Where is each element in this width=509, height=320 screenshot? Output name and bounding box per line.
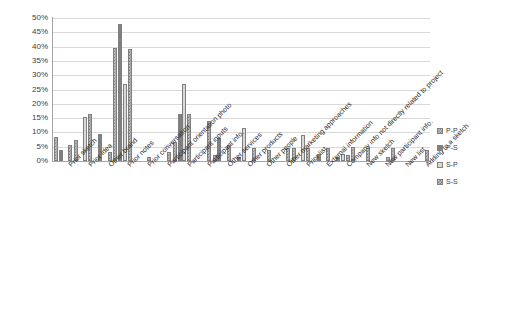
y-axis-tick-label: 5% [4, 143, 48, 151]
x-axis-tick-label: Other people [265, 163, 271, 169]
x-axis-tick-label: Other services [226, 163, 232, 169]
y-axis-ticks: 50%45%40%35%30%25%20%15%10%5%0% [0, 18, 48, 161]
bar-p-s [59, 150, 63, 161]
legend-swatch-icon [437, 128, 443, 134]
bar-p-s [118, 24, 122, 161]
bar-p-p [113, 48, 117, 161]
y-axis-tick-label: 30% [4, 71, 48, 79]
x-axis-tick-label: External information [325, 163, 331, 169]
x-axis-tick-label: Participant orientation photo [166, 163, 172, 169]
legend-item: S-S [437, 173, 499, 190]
bar-group [53, 18, 73, 161]
legend-label: S-P [446, 161, 458, 168]
legend-item: P-S [437, 139, 499, 156]
y-axis-tick-label: 50% [4, 14, 48, 22]
legend-swatch-icon [437, 145, 443, 151]
x-axis-tick-label: Participant inputs [186, 163, 192, 169]
y-axis-tick-label: 0% [4, 157, 48, 165]
legend-swatch-icon [437, 162, 443, 168]
x-axis-tick-label: Company info not directly related to pro… [345, 163, 351, 169]
y-axis-tick-label: 40% [4, 43, 48, 51]
legend-item: S-P [437, 156, 499, 173]
x-axis-tick-label: Prior conversation [146, 163, 152, 169]
y-axis-tick-label: 20% [4, 100, 48, 108]
x-axis-tick-label: Adding to a sketch [424, 163, 430, 169]
y-axis-tick-label: 35% [4, 57, 48, 65]
x-axis-tick-label: Prior notes [126, 163, 132, 169]
legend-swatch-icon [437, 179, 443, 185]
x-axis-tick-label: New sketch [365, 163, 371, 169]
x-axis-tick-label: New participant info. [384, 163, 390, 169]
legend-item: P-P [437, 122, 499, 139]
y-axis-tick-label: 45% [4, 28, 48, 36]
x-axis-tick-label: Other products [246, 163, 252, 169]
y-axis-tick-label: 15% [4, 114, 48, 122]
x-axis-tick-label: Participant info. [206, 163, 212, 169]
legend-label: S-S [446, 178, 458, 185]
bar-p-p [54, 137, 58, 161]
x-axis-tick-label: New list [404, 163, 410, 169]
x-axis-tick-label: Other marketing approaches [285, 163, 291, 169]
y-axis-tick-label: 10% [4, 128, 48, 136]
legend-label: P-P [446, 127, 458, 134]
x-axis-tick-label: Other brand [107, 163, 113, 169]
x-axis-tick-label: Prior sketch [67, 163, 73, 169]
y-axis-tick-label: 25% [4, 86, 48, 94]
x-axis-tick-label: Prior idea [87, 163, 93, 169]
legend-label: P-S [446, 144, 458, 151]
x-axis-tick-label: Prior list [305, 163, 311, 169]
chart-legend: P-PP-SS-PS-S [437, 122, 499, 190]
bar-chart: 50%45%40%35%30%25%20%15%10%5%0% Prior sk… [0, 0, 509, 320]
